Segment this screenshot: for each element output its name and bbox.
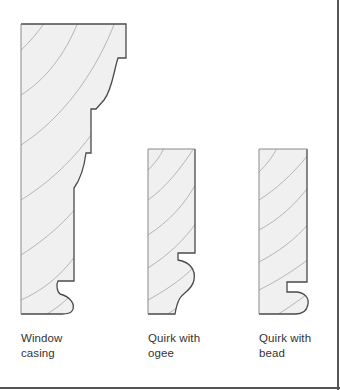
caption-line: Window <box>21 331 63 346</box>
window-casing-profile <box>21 22 130 318</box>
frame-border-bottom <box>0 387 340 389</box>
caption-window-casing: Window casing <box>21 331 63 361</box>
caption-line: Quirk with <box>259 331 311 346</box>
caption-line: ogee <box>148 346 200 361</box>
caption-line: Quirk with <box>148 331 200 346</box>
frame-border-right <box>337 0 339 390</box>
caption-line: bead <box>259 346 311 361</box>
caption-quirk-bead: Quirk with bead <box>259 331 311 361</box>
caption-quirk-ogee: Quirk with ogee <box>148 331 200 361</box>
quirk-bead-profile <box>259 148 310 318</box>
quirk-ogee-profile <box>148 145 198 318</box>
caption-line: casing <box>21 346 63 361</box>
